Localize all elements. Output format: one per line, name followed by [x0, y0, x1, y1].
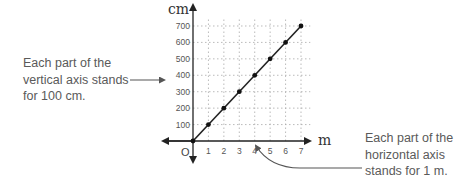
x-axis-unit: m — [318, 132, 331, 148]
data-point — [299, 24, 304, 29]
note-line: stands for 1 m. — [365, 163, 453, 180]
y-tick-label: 200 — [176, 103, 190, 113]
data-point — [252, 73, 257, 78]
data-point — [221, 106, 226, 111]
y-tick-label: 500 — [176, 54, 190, 64]
y-axis-unit: cm — [168, 1, 189, 17]
note-line: horizontal axis — [365, 147, 453, 164]
data-point — [237, 89, 242, 94]
y-tick-label: 400 — [176, 70, 190, 80]
horizontal-axis-note: Each part of the horizontal axis stands … — [365, 130, 453, 180]
note-line: for 100 cm. — [23, 88, 129, 105]
x-tick-labels: 1234567 — [206, 146, 304, 156]
y-tick-labels: 100200300400500600700 — [176, 21, 190, 130]
data-point — [191, 139, 196, 144]
x-tick-label: 5 — [268, 146, 273, 156]
y-tick-label: 700 — [176, 21, 190, 31]
y-tick-label: 100 — [176, 120, 190, 130]
x-tick-label: 6 — [283, 146, 288, 156]
note-line: Each part of the — [23, 55, 129, 72]
data-point — [206, 122, 211, 127]
data-point — [283, 40, 288, 45]
vertical-axis-note: Each part of the vertical axis stands fo… — [23, 55, 129, 105]
x-tick-label: 2 — [221, 146, 226, 156]
y-tick-label: 300 — [176, 87, 190, 97]
y-tick-label: 600 — [176, 37, 190, 47]
origin-label: O — [181, 146, 190, 158]
data-point — [268, 56, 273, 61]
x-tick-label: 1 — [206, 146, 211, 156]
note-line: vertical axis stands — [23, 72, 129, 89]
x-tick-label: 7 — [299, 146, 304, 156]
x-tick-label: 3 — [237, 146, 242, 156]
note-line: Each part of the — [365, 130, 453, 147]
